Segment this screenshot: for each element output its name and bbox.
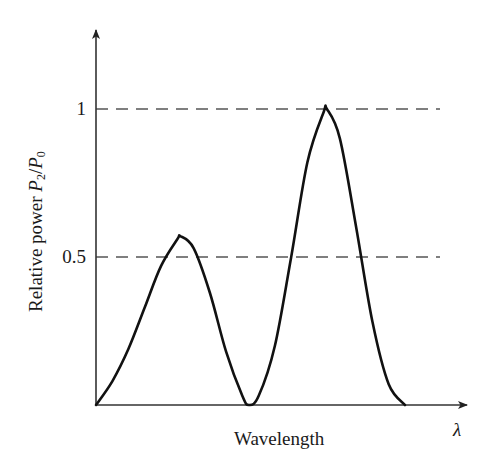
x-axis-label: Wavelength (234, 429, 324, 448)
y-axis-label-prefix: Relative power (25, 192, 46, 312)
y-axis-label-denominator: P (25, 157, 46, 169)
y-axis-label-slash: / (25, 169, 46, 174)
y-axis-label-numerator: P (25, 180, 46, 192)
reference-lines (96, 109, 440, 257)
relative-power-curve (96, 105, 405, 405)
y-tick-label: 0.5 (62, 247, 86, 266)
x-axis-symbol-lambda: λ (453, 420, 461, 439)
y-axis-label-numerator-subscript: 2 (34, 174, 48, 180)
y-tick-label: 1 (77, 99, 87, 118)
y-axis-label: Relative power P2/P0 (26, 151, 47, 312)
y-axis-label-denominator-subscript: 0 (34, 151, 48, 157)
chart-canvas (0, 0, 484, 474)
